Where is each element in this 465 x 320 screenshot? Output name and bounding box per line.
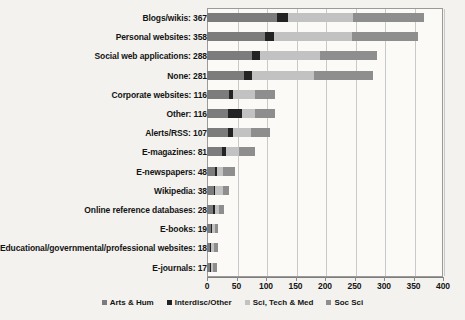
bar-segment-sci-tech-med — [288, 13, 353, 22]
bar-segment-soc-sci — [239, 147, 254, 156]
bar-segment-sci-tech-med — [274, 32, 352, 41]
bar-segment-soc-sci — [320, 51, 377, 60]
bar-segment-interdisc-other — [228, 109, 243, 118]
stacked-bar — [207, 243, 218, 252]
stacked-bar — [207, 90, 275, 99]
bar-label: E-newspapers: 48 — [136, 162, 207, 182]
stacked-bar — [207, 13, 424, 22]
bar-segment-interdisc-other — [265, 32, 274, 41]
chart-row: E-magazines: 81 — [0, 142, 465, 162]
bar-segment-soc-sci — [353, 13, 423, 22]
bar-segment-arts-hum — [207, 90, 229, 99]
bar-label: Corporate websites: 116 — [112, 85, 208, 105]
bar-segment-soc-sci — [213, 263, 217, 272]
legend-item: Soc Sci — [326, 298, 363, 307]
bar-segment-arts-hum — [207, 167, 215, 176]
chart-row: Alerts/RSS: 107 — [0, 123, 465, 143]
stacked-bar — [207, 71, 373, 80]
chart-row: Blogs/wikis: 367 — [0, 8, 465, 28]
bar-label: Educational/governmental/professional we… — [0, 238, 207, 258]
bar-segment-soc-sci — [223, 186, 229, 195]
chart-row: E-books: 19 — [0, 219, 465, 239]
bar-segment-arts-hum — [207, 147, 222, 156]
bar-segment-soc-sci — [215, 224, 219, 233]
bar-segment-sci-tech-med — [226, 147, 240, 156]
bar-segment-sci-tech-med — [233, 128, 251, 137]
bar-segment-sci-tech-med — [242, 109, 255, 118]
bar-segment-arts-hum — [207, 109, 228, 118]
bar-label: Online reference databases: 28 — [84, 200, 207, 220]
chart-row: Educational/governmental/professional we… — [0, 238, 465, 258]
chart-row: Wikipedia: 38 — [0, 181, 465, 201]
chart-legend: Arts & HumInterdisc/OtherSci, Tech & Med… — [0, 298, 465, 307]
chart-row: None: 281 — [0, 66, 465, 86]
chart-row: E-journals: 17 — [0, 258, 465, 278]
bar-label: E-books: 19 — [160, 219, 207, 239]
bar-segment-arts-hum — [207, 51, 252, 60]
bar-segment-sci-tech-med — [260, 51, 320, 60]
stacked-bar — [207, 224, 218, 233]
stacked-bar — [207, 128, 270, 137]
bar-segment-soc-sci — [255, 90, 275, 99]
stacked-bar — [207, 186, 229, 195]
stacked-bar — [207, 205, 224, 214]
bar-segment-interdisc-other — [277, 13, 288, 22]
stacked-bar — [207, 263, 217, 272]
stacked-bar — [207, 51, 377, 60]
legend-label: Interdisc/Other — [175, 298, 232, 307]
legend-item: Interdisc/Other — [167, 298, 232, 307]
legend-swatch-icon — [326, 300, 331, 305]
stacked-bar-chart: Blogs/wikis: 367Personal websites: 358So… — [0, 0, 465, 320]
bar-label: E-journals: 17 — [152, 258, 207, 278]
chart-row: Other: 116 — [0, 104, 465, 124]
stacked-bar — [207, 109, 275, 118]
stacked-bar — [207, 167, 235, 176]
bar-label: Personal websites: 358 — [116, 27, 207, 47]
legend-item: Arts & Hum — [102, 298, 154, 307]
legend-label: Arts & Hum — [110, 298, 154, 307]
legend-swatch-icon — [102, 300, 107, 305]
legend-swatch-icon — [167, 300, 172, 305]
legend-swatch-icon — [245, 300, 250, 305]
bar-segment-interdisc-other — [252, 51, 260, 60]
bar-segment-interdisc-other — [244, 71, 252, 80]
bar-label: Wikipedia: 38 — [154, 181, 207, 201]
bar-segment-arts-hum — [207, 32, 265, 41]
chart-row: Corporate websites: 116 — [0, 85, 465, 105]
chart-row: Online reference databases: 28 — [0, 200, 465, 220]
bar-label: Alerts/RSS: 107 — [145, 123, 207, 143]
bar-segment-soc-sci — [314, 71, 372, 80]
bar-segment-sci-tech-med — [215, 186, 223, 195]
legend-label: Soc Sci — [334, 298, 363, 307]
legend-label: Sci, Tech & Med — [253, 298, 314, 307]
bar-label: None: 281 — [167, 66, 207, 86]
x-tick-label: 400 — [423, 281, 463, 291]
bar-segment-soc-sci — [223, 167, 235, 176]
bar-segment-sci-tech-med — [233, 90, 255, 99]
stacked-bar — [207, 147, 255, 156]
bar-label: Blogs/wikis: 367 — [142, 8, 207, 28]
bar-segment-arts-hum — [207, 71, 244, 80]
bar-label: E-magazines: 81 — [142, 142, 207, 162]
chart-row: E-newspapers: 48 — [0, 162, 465, 182]
bar-segment-arts-hum — [207, 13, 277, 22]
chart-row: Personal websites: 358 — [0, 27, 465, 47]
bar-segment-soc-sci — [251, 128, 270, 137]
bar-segment-arts-hum — [207, 186, 214, 195]
bar-segment-soc-sci — [214, 243, 218, 252]
stacked-bar — [207, 32, 418, 41]
bar-label: Social web applications: 288 — [95, 46, 207, 66]
bar-segment-soc-sci — [255, 109, 275, 118]
bar-label: Other: 116 — [166, 104, 207, 124]
chart-row: Social web applications: 288 — [0, 46, 465, 66]
bar-segment-soc-sci — [219, 205, 224, 214]
bar-segment-arts-hum — [207, 128, 228, 137]
bar-segment-soc-sci — [352, 32, 418, 41]
legend-item: Sci, Tech & Med — [245, 298, 314, 307]
bar-segment-sci-tech-med — [252, 71, 314, 80]
